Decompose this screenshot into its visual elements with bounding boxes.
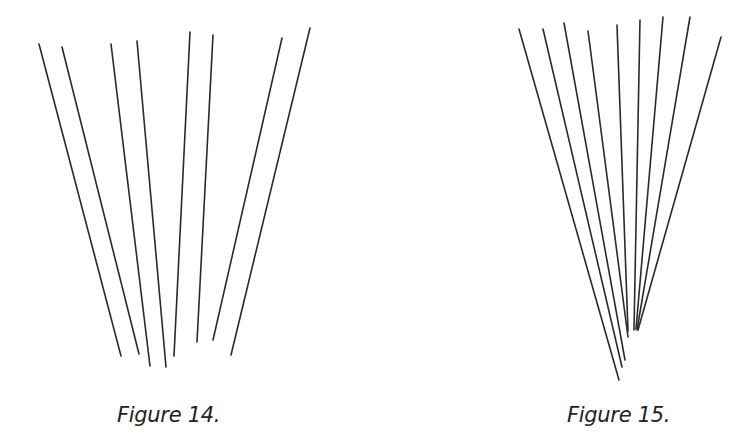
line-segment xyxy=(634,20,640,330)
figure-diagrams xyxy=(0,0,729,437)
figure-15-lines xyxy=(519,17,721,380)
line-segment xyxy=(617,25,628,331)
line-segment xyxy=(39,44,121,356)
line-segment xyxy=(197,35,213,342)
line-segment xyxy=(519,29,619,380)
line-segment xyxy=(174,32,190,356)
figure-15-caption: Figure 15. xyxy=(567,403,670,427)
line-segment xyxy=(231,28,310,355)
figure-14-lines xyxy=(39,28,310,367)
line-segment xyxy=(564,23,625,360)
line-segment xyxy=(62,47,139,354)
line-segment xyxy=(137,41,166,367)
line-segment xyxy=(636,17,663,329)
figure-14-caption: Figure 14. xyxy=(117,403,220,427)
